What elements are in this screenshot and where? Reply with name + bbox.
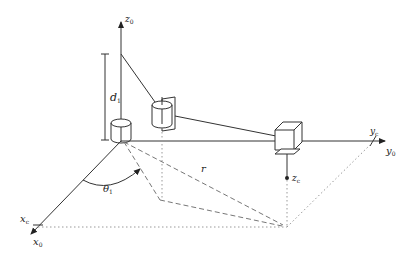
link-1 [121,54,155,102]
d1-label: d1 [110,91,121,104]
projection-lines [38,128,374,227]
link-2 [175,116,276,136]
yc-label: yc [369,126,379,137]
x0-label: x0 [33,236,43,248]
z0-label: z0 [124,14,134,25]
r-label: r [201,163,207,174]
camera-box [275,122,302,180]
xc-label: xc [20,213,30,225]
elbow-joint [152,97,175,131]
y0-axis [121,136,385,146]
diagram-canvas: z0 d1 θ1 r yc y0 zc xc x0 [0,0,407,258]
y0-label: y0 [385,145,396,157]
zc-label: zc [291,173,301,184]
d1-dimension [101,54,109,140]
r-distance-lines [124,142,283,226]
